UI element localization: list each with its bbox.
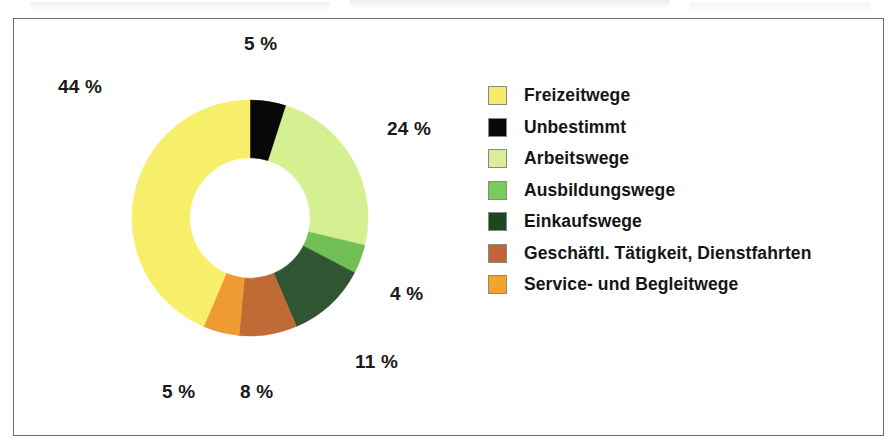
scan-artifact bbox=[30, 2, 330, 13]
legend-item: Service- und Begleitwege bbox=[488, 269, 858, 301]
data-label: 5 % bbox=[162, 381, 195, 403]
donut-chart-svg bbox=[130, 98, 370, 338]
donut-slice bbox=[268, 106, 368, 246]
legend-color-swatch bbox=[488, 212, 507, 231]
data-label: 11 % bbox=[355, 351, 398, 373]
data-label: 44 % bbox=[58, 76, 102, 98]
scan-artifact bbox=[350, 0, 670, 9]
legend-item-label: Service- und Begleitwege bbox=[524, 274, 738, 295]
legend-color-swatch bbox=[488, 149, 507, 168]
legend-item-label: Geschäftl. Tätigkeit, Dienstfahrten bbox=[524, 243, 811, 264]
figure-container: 5 %24 %4 %11 %8 %5 %44 % FreizeitwegeUnb… bbox=[0, 0, 893, 446]
legend-item: Geschäftl. Tätigkeit, Dienstfahrten bbox=[488, 238, 858, 270]
legend-item: Einkaufswege bbox=[488, 206, 858, 238]
legend-item: Ausbildungswege bbox=[488, 175, 858, 207]
legend-color-swatch bbox=[488, 118, 507, 137]
legend-item: Unbestimmt bbox=[488, 112, 858, 144]
legend-item-label: Freizeitwege bbox=[524, 85, 630, 106]
data-label: 8 % bbox=[240, 381, 273, 403]
data-label: 4 % bbox=[390, 283, 423, 305]
legend-item: Arbeitswege bbox=[488, 143, 858, 175]
scan-artifact bbox=[690, 3, 870, 11]
legend-color-swatch bbox=[488, 275, 507, 294]
legend-color-swatch bbox=[488, 181, 507, 200]
legend-item: Freizeitwege bbox=[488, 80, 858, 112]
legend-item-label: Ausbildungswege bbox=[524, 180, 675, 201]
data-label: 24 % bbox=[387, 118, 431, 140]
legend: FreizeitwegeUnbestimmtArbeitswegeAusbild… bbox=[488, 80, 858, 301]
legend-color-swatch bbox=[488, 244, 507, 263]
legend-item-label: Einkaufswege bbox=[524, 211, 642, 232]
legend-color-swatch bbox=[488, 86, 507, 105]
data-label: 5 % bbox=[244, 33, 277, 55]
legend-item-label: Arbeitswege bbox=[524, 148, 629, 169]
donut-chart bbox=[130, 98, 370, 338]
legend-item-label: Unbestimmt bbox=[524, 117, 626, 138]
